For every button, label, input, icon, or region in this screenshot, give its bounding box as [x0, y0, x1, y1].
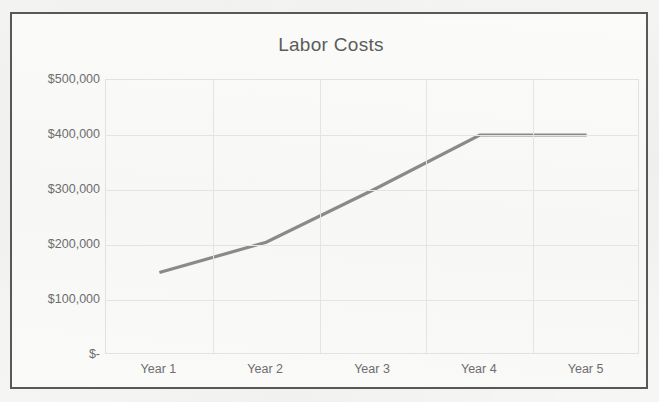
- series-polyline: [159, 135, 586, 273]
- x-axis-tick-label: Year 2: [247, 362, 283, 376]
- y-axis-tick-label: $500,000: [14, 72, 100, 86]
- y-axis-tick-label: $200,000: [14, 237, 100, 251]
- gridline-horizontal: [106, 300, 638, 301]
- gridline-vertical: [533, 80, 534, 353]
- line-series-labor-costs: [106, 80, 640, 355]
- gridline-vertical: [320, 80, 321, 353]
- plot-area: [105, 79, 639, 354]
- gridline-horizontal: [106, 135, 638, 136]
- y-axis-tick-label: $300,000: [14, 182, 100, 196]
- y-axis-tick-label: $400,000: [14, 127, 100, 141]
- x-axis-tick-label: Year 3: [354, 362, 390, 376]
- chart-frame: Labor Costs $-$100,000$200,000$300,000$4…: [10, 12, 648, 389]
- chart-page: Labor Costs $-$100,000$200,000$300,000$4…: [0, 0, 659, 402]
- x-axis-tick-label: Year 1: [141, 362, 177, 376]
- gridline-horizontal: [106, 245, 638, 246]
- gridline-vertical: [213, 80, 214, 353]
- x-axis-tick-label: Year 5: [568, 362, 604, 376]
- y-axis-tick-labels: $-$100,000$200,000$300,000$400,000$500,0…: [12, 79, 100, 354]
- x-axis-tick-labels: Year 1Year 2Year 3Year 4Year 5: [105, 362, 639, 384]
- x-axis-tick-label: Year 4: [461, 362, 497, 376]
- gridline-vertical: [426, 80, 427, 353]
- y-axis-tick-label: $100,000: [14, 292, 100, 306]
- y-axis-tick-label: $-: [14, 347, 100, 361]
- chart-title: Labor Costs: [12, 34, 650, 56]
- gridline-horizontal: [106, 190, 638, 191]
